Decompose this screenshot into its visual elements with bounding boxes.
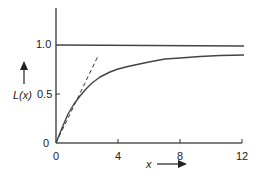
y-tick-label-0: 0 — [43, 137, 49, 149]
asymptote-line — [56, 45, 244, 46]
curve-L — [56, 55, 244, 143]
y-axis-label: L(x) — [13, 89, 32, 101]
x-tick-label-0: 0 — [53, 150, 59, 162]
y-arrowhead-icon — [20, 61, 28, 70]
chart: 0 0.5 1.0 0 4 8 12 L(x) x — [0, 0, 260, 179]
y-tick-label-1.0: 1.0 — [36, 38, 51, 50]
x-tick-label-12: 12 — [236, 150, 248, 162]
y-tick-label-0.5: 0.5 — [37, 88, 52, 100]
x-axis-label: x — [145, 158, 152, 170]
x-tick-label-4: 4 — [115, 150, 121, 162]
x-tick-label-8: 8 — [177, 150, 183, 162]
